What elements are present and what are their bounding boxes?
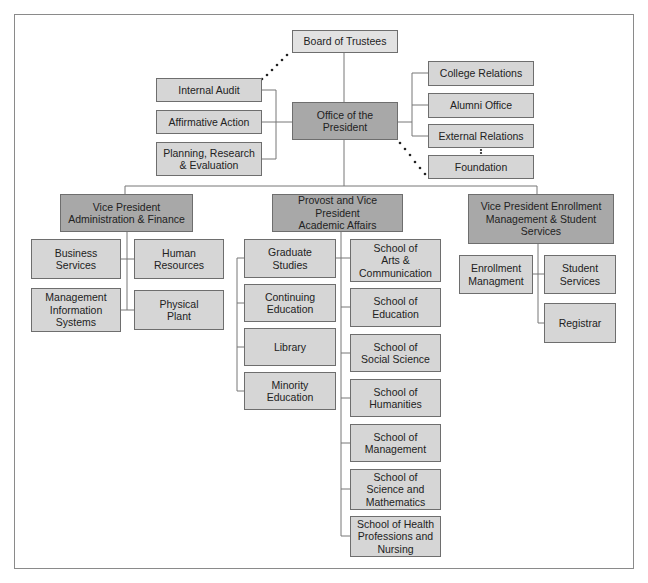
graduate-studies-box: Graduate Studies	[244, 239, 336, 278]
internal-audit-box: Internal Audit	[156, 78, 262, 102]
affirmative-action-box: Affirmative Action	[156, 110, 262, 134]
college-relations-box: College Relations	[428, 61, 534, 86]
school-science-box: School of Science and Mathematics	[350, 469, 441, 510]
foundation-box: Foundation	[428, 155, 534, 179]
vp-admin-finance-box: Vice President Administration & Finance	[60, 194, 193, 232]
office-of-president-box: Office of the President	[292, 102, 398, 140]
school-health-box: School of Health Professions and Nursing	[350, 516, 441, 557]
school-arts-box: School of Arts & Communication	[350, 239, 441, 282]
school-humanities-box: School of Humanities	[350, 379, 441, 417]
minority-education-box: Minority Education	[244, 372, 336, 410]
human-resources-box: Human Resources	[134, 239, 224, 279]
alumni-office-box: Alumni Office	[428, 93, 534, 118]
school-management-box: School of Management	[350, 424, 441, 462]
school-education-box: School of Education	[350, 288, 441, 327]
registrar-box: Registrar	[544, 303, 616, 343]
enrollment-management-box: Enrollment Managment	[459, 255, 533, 294]
school-social-science-box: School of Social Science	[350, 334, 441, 372]
library-box: Library	[244, 328, 336, 366]
vp-enrollment-box: Vice President Enrollment Management & S…	[468, 194, 614, 244]
board-of-trustees-box: Board of Trustees	[292, 30, 398, 53]
student-services-box: Student Services	[544, 255, 616, 294]
external-relations-box: External Relations	[428, 124, 534, 148]
org-chart: Board of Trustees Internal Audit Affirma…	[0, 0, 648, 583]
physical-plant-box: Physical Plant	[134, 290, 224, 330]
continuing-education-box: Continuing Education	[244, 284, 336, 322]
business-services-box: Business Services	[31, 239, 121, 279]
mis-box: Management Information Systems	[31, 288, 121, 332]
planning-box: Planning, Research & Evaluation	[156, 142, 262, 176]
provost-box: Provost and Vice President Academic Affa…	[272, 194, 403, 232]
